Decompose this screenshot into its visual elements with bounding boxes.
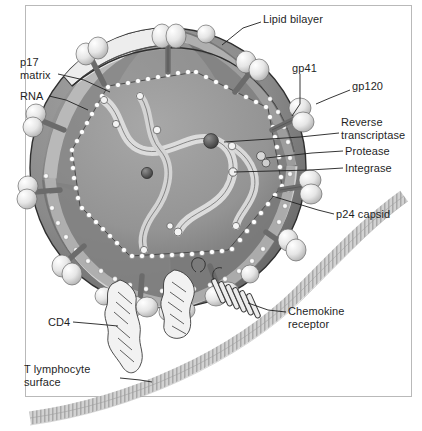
leader-gp120 [316,90,350,104]
label-chemokine-receptor: Chemokine receptor [288,305,345,330]
label-rna: RNA [20,90,44,103]
cd4-receptor [161,270,194,338]
leader-t-lymphocyte-surface [120,378,152,382]
label-integrase: Integrase [345,162,392,175]
label-gp120: gp120 [352,80,383,93]
label-gp41: gp41 [292,62,317,75]
label-p24-capsid: p24 capsid [336,208,390,221]
protease-sphere [262,159,270,167]
label-t-lymphocyte-surface: T lymphocyte surface [24,363,90,388]
label-protease: Protease [345,145,390,158]
label-cd4: CD4 [48,316,70,329]
reverse-transcriptase-sphere [204,134,219,149]
label-lipid-bilayer: Lipid bilayer [263,13,323,26]
reverse-transcriptase-sphere [141,167,152,178]
label-reverse-transcriptase: Reverse transcriptase [341,116,405,141]
label-p17-matrix: p17 matrix [20,56,51,81]
hiv-virion-figure: Lipid bilayergp41gp120p17 matrixRNARever… [0,0,422,431]
